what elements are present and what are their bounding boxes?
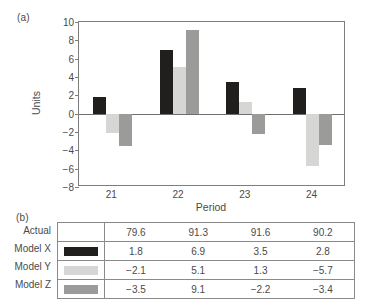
row-label-model-x: Model X <box>0 240 55 258</box>
row-label-actual: Actual <box>0 222 55 240</box>
table-cell: 1.3 <box>229 261 291 280</box>
bar-model-x-24 <box>293 88 306 114</box>
swatch-cell <box>58 280 105 299</box>
row-label-model-z: Model Z <box>0 276 55 294</box>
y-tick-label: −8 <box>63 182 74 193</box>
table-cell: 3.5 <box>229 242 291 261</box>
table-cell: 9.1 <box>167 280 229 299</box>
bar-model-y-22 <box>173 67 186 114</box>
table-cell: 91.6 <box>229 223 291 242</box>
table-cell: −2.1 <box>104 261 167 280</box>
y-tick-mark <box>75 187 79 188</box>
x-tick-label-23: 23 <box>239 189 250 200</box>
y-tick-mark <box>75 59 79 60</box>
row-label-model-y: Model Y <box>0 258 55 276</box>
table-cell: 91.3 <box>167 223 229 242</box>
bar-chart-panel: Units 1086420−2−4−6−8 21222324 Period <box>0 0 376 210</box>
table-row: −3.59.1−2.2−3.4 <box>58 280 355 299</box>
legend-swatch-model-z <box>64 285 98 294</box>
bar-model-z-21 <box>119 114 132 146</box>
x-axis-title: Period <box>196 201 226 213</box>
y-tick-label: 2 <box>68 90 74 101</box>
y-axis-title: Units <box>30 91 42 115</box>
y-tick-label: 0 <box>68 108 74 119</box>
y-tick-label: 6 <box>68 53 74 64</box>
data-table-panel: ActualModel XModel YModel Z 79.691.391.6… <box>0 222 376 300</box>
table-row: 1.86.93.52.8 <box>58 242 355 261</box>
y-tick-mark <box>75 77 79 78</box>
bar-model-z-24 <box>319 114 332 145</box>
plot-frame: 1086420−2−4−6−8 <box>78 21 345 186</box>
table-cell: 1.8 <box>104 242 167 261</box>
bar-model-z-23 <box>252 114 265 134</box>
bar-model-y-24 <box>306 114 319 166</box>
y-tick-mark <box>75 132 79 133</box>
y-tick-label: −6 <box>63 163 74 174</box>
bar-model-z-22 <box>186 30 199 113</box>
y-tick-label: 10 <box>63 17 74 28</box>
y-tick-mark <box>75 40 79 41</box>
table-cell: −5.7 <box>292 261 355 280</box>
table-cell: 5.1 <box>167 261 229 280</box>
figure: (a) Units 1086420−2−4−6−8 21222324 Perio… <box>0 0 376 303</box>
y-tick-mark <box>75 95 79 96</box>
table-cell: 79.6 <box>104 223 167 242</box>
table-cell: −3.5 <box>104 280 167 299</box>
y-tick-mark <box>75 169 79 170</box>
swatch-cell <box>58 261 105 280</box>
table-cell: −3.4 <box>292 280 355 299</box>
bar-model-x-22 <box>160 50 173 113</box>
data-table: 79.691.391.690.21.86.93.52.8−2.15.11.3−5… <box>57 222 355 299</box>
x-tick-label-24: 24 <box>306 189 317 200</box>
y-tick-mark <box>75 114 79 115</box>
table-row: −2.15.11.3−5.7 <box>58 261 355 280</box>
bar-model-x-21 <box>93 97 106 114</box>
swatch-cell <box>58 242 105 261</box>
table-cell: 6.9 <box>167 242 229 261</box>
bar-model-y-21 <box>106 114 119 133</box>
swatch-cell <box>58 223 105 242</box>
y-tick-label: 4 <box>68 72 74 83</box>
table-cell: −2.2 <box>229 280 291 299</box>
bar-model-x-23 <box>226 82 239 114</box>
x-tick-label-21: 21 <box>106 189 117 200</box>
y-tick-mark <box>75 150 79 151</box>
x-tick-label-22: 22 <box>173 189 184 200</box>
legend-swatch-model-x <box>64 247 98 256</box>
legend-swatch-model-y <box>64 266 98 275</box>
y-tick-label: −4 <box>63 145 74 156</box>
table-cell: 2.8 <box>292 242 355 261</box>
plot-area <box>79 22 344 185</box>
y-tick-mark <box>75 22 79 23</box>
bar-model-y-23 <box>239 102 252 114</box>
y-tick-label: −2 <box>63 127 74 138</box>
table-cell: 90.2 <box>292 223 355 242</box>
y-tick-label: 8 <box>68 35 74 46</box>
table-row: 79.691.391.690.2 <box>58 223 355 242</box>
table-row-labels: ActualModel XModel YModel Z <box>0 222 55 294</box>
